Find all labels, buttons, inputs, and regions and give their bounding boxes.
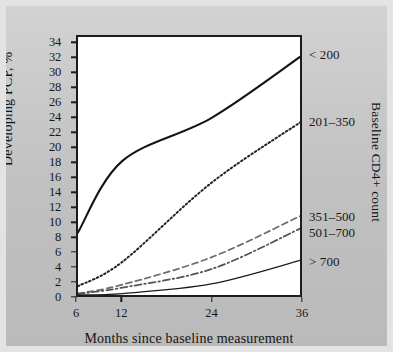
y-tick-label: 32: [21, 51, 61, 64]
x-tick-mark: [301, 297, 302, 302]
y-tick-label: 14: [21, 186, 61, 199]
y-tick-label: 20: [21, 141, 61, 154]
y-tick-label: 2: [21, 276, 61, 289]
y-tick-label: 24: [21, 111, 61, 124]
series-line: [78, 229, 300, 294]
y-tick-label: 18: [21, 156, 61, 169]
x-tick-mark: [120, 297, 121, 302]
series-label-4: > 700: [309, 254, 340, 270]
y-tick-label: 8: [21, 231, 61, 244]
x-tick-label: 6: [73, 307, 79, 320]
y-tick-label: 34: [21, 36, 61, 49]
y-tick-label: 26: [21, 96, 61, 109]
x-tick-label: 36: [296, 307, 309, 320]
series-label-2: 351–500: [309, 209, 355, 225]
y-tick-label: 22: [21, 126, 61, 139]
x-tick-mark: [211, 297, 212, 302]
y-tick-label: 0: [21, 291, 61, 304]
y-tick-label: 16: [21, 171, 61, 184]
figure-container: Developing PCP, % Months since baseline …: [0, 0, 393, 352]
x-tick-mark: [75, 297, 76, 302]
plot-lines: [78, 37, 300, 295]
x-axis-title: Months since baseline measurement: [84, 331, 293, 347]
y-tick-label: 4: [21, 261, 61, 274]
series-line: [78, 216, 300, 293]
series-line: [78, 123, 300, 287]
series-label-1: 201–350: [309, 114, 355, 130]
y-tick-label: 6: [21, 246, 61, 259]
x-tick-label: 24: [205, 307, 218, 320]
x-tick-label: 12: [115, 307, 128, 320]
y-tick-label: 12: [21, 201, 61, 214]
series-label-3: 501–700: [309, 225, 355, 241]
right-axis-title: Baseline CD4+ count: [368, 102, 384, 222]
plot-area: [76, 35, 302, 297]
y-tick-label: 30: [21, 66, 61, 79]
y-axis-title: Developing PCP, %: [0, 52, 16, 166]
y-tick-label: 10: [21, 216, 61, 229]
y-tick-label: 28: [21, 81, 61, 94]
series-label-0: < 200: [309, 47, 340, 63]
figure-background: Developing PCP, % Months since baseline …: [6, 6, 387, 346]
